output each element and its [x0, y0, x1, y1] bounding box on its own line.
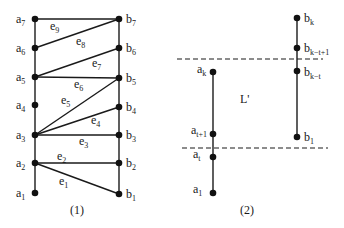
caption-diagram-2: (2) [240, 203, 254, 217]
label-b1: b1 [126, 187, 136, 203]
label-e3: e3 [79, 134, 88, 150]
node-at [210, 154, 217, 161]
node-a3 [32, 132, 39, 139]
diagram-1-edge-labels: e9 e8 e7 e6 e5 e4 e3 e2 e1 [50, 19, 101, 190]
label-a3: a3 [16, 128, 25, 144]
node-at-plus-1 [210, 131, 217, 138]
node-a5 [32, 74, 39, 81]
node-a4 [32, 102, 39, 109]
label-e7: e7 [92, 56, 101, 72]
label-e5: e5 [61, 93, 70, 109]
label-bk-t: bk−t [304, 65, 322, 81]
node-a1 [32, 190, 39, 197]
label-b5: b5 [126, 71, 136, 87]
node-b4 [116, 104, 123, 111]
node-a6 [32, 45, 39, 52]
node-a2 [32, 160, 39, 167]
node-b6 [116, 45, 123, 52]
node-b5 [116, 75, 123, 82]
node-b3 [116, 132, 123, 139]
label-a4: a4 [16, 98, 25, 114]
label-ak: ak [197, 62, 206, 78]
node-b1 [294, 134, 301, 141]
label-e9: e9 [50, 19, 59, 35]
bipartite-diagram-canvas: a7 a6 a5 a4 a3 a2 a1 b7 b6 b5 b4 b3 b2 b… [0, 0, 344, 228]
edge-e7 [35, 48, 119, 77]
label-e8: e8 [76, 34, 85, 50]
edge-e4 [35, 107, 119, 135]
label-b7: b7 [126, 12, 136, 28]
node-bk-t-plus-1 [294, 45, 301, 52]
node-b7 [116, 16, 123, 23]
label-a1: a1 [193, 182, 202, 198]
diagram-1-left-labels: a7 a6 a5 a4 a3 a2 a1 [16, 12, 25, 202]
node-ak [210, 69, 217, 76]
label-a7: a7 [16, 12, 25, 28]
label-at-plus-1: at+1 [191, 123, 207, 139]
node-a7 [32, 16, 39, 23]
label-b2: b2 [126, 156, 136, 172]
diagram-2-right-labels: bk bk−t+1 bk−t b1 [304, 11, 329, 146]
node-bk-t [294, 68, 301, 75]
diagram-1-right-labels: b7 b6 b5 b4 b3 b2 b1 [126, 12, 136, 203]
region-label-L-prime: L' [240, 92, 250, 106]
label-e2: e2 [57, 149, 66, 165]
node-b1 [116, 191, 123, 198]
label-b3: b3 [126, 128, 136, 144]
node-b2 [116, 160, 123, 167]
edge-e1 [35, 163, 119, 194]
label-bk-t-plus-1: bk−t+1 [304, 41, 329, 57]
label-bk: bk [304, 11, 314, 27]
node-bk [294, 15, 301, 22]
label-e6: e6 [74, 77, 83, 93]
label-b4: b4 [126, 100, 136, 116]
node-a1 [210, 190, 217, 197]
diagram-2-nodes [210, 15, 301, 197]
label-a2: a2 [16, 156, 25, 172]
label-e4: e4 [91, 113, 100, 129]
label-e1: e1 [59, 174, 68, 190]
diagram-2-left-labels: ak at+1 at a1 [191, 62, 207, 198]
label-b1: b1 [304, 130, 314, 146]
label-a5: a5 [16, 70, 25, 86]
caption-diagram-1: (1) [70, 203, 84, 217]
label-a1: a1 [16, 186, 25, 202]
label-a6: a6 [16, 41, 25, 57]
label-b6: b6 [126, 41, 136, 57]
label-at: at [193, 147, 201, 163]
